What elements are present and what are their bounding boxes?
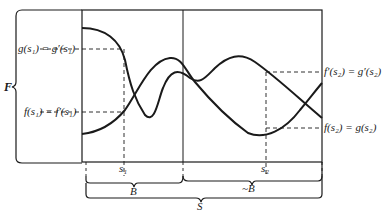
label-g-s1: g(s₁) = g′(s₁)	[18, 42, 76, 55]
label-F: F	[3, 80, 12, 94]
label-S: S	[197, 200, 203, 212]
label-s1: s₁	[119, 162, 127, 174]
label-f-s2: f(s₂) = g(s₂)	[324, 121, 377, 134]
label-s2: s₂	[261, 162, 269, 174]
brace-F	[12, 10, 82, 163]
label-B: B	[130, 185, 137, 197]
curve-f	[82, 58, 322, 135]
diagram-canvas: F g(s₁) = g′(s₁) f(s₁) = f′(s₁) f′(s₂) =…	[0, 0, 386, 214]
label-not-B: ~B	[242, 182, 255, 194]
label-fprime-s2: f′(s₂) = g′(s₂)	[324, 65, 381, 78]
brace-S	[86, 176, 322, 202]
label-f-s1: f(s₁) = f′(s₁)	[24, 105, 77, 118]
curve-g	[82, 28, 322, 118]
